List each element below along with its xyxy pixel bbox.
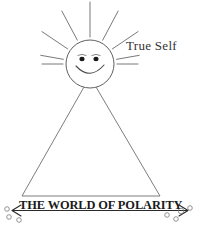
world-of-polarity-label: THE WORLD OF POLARITY — [19, 198, 182, 213]
sun-ray-3 — [62, 11, 77, 40]
sun-ray-1 — [103, 11, 118, 40]
sun-ray-5 — [41, 55, 64, 59]
right-eye-icon — [93, 57, 98, 61]
bubble-left-1 — [7, 215, 12, 220]
left-eye-icon — [79, 57, 84, 61]
bubble-right-3 — [188, 206, 193, 211]
sun-ray-4 — [42, 32, 68, 49]
sun-disc — [66, 40, 114, 88]
bubble-right-1 — [174, 217, 179, 222]
sun-ray-6 — [117, 55, 140, 59]
bubble-right-0 — [165, 213, 170, 218]
diagram-canvas: True Self THE WORLD OF POLARITY — [0, 0, 199, 235]
true-self-label: True Self — [126, 38, 177, 54]
bubble-left-0 — [5, 207, 10, 212]
bubble-left-2 — [17, 218, 22, 223]
triangle-right-side — [96, 87, 160, 196]
triangle-left-side — [22, 87, 84, 196]
